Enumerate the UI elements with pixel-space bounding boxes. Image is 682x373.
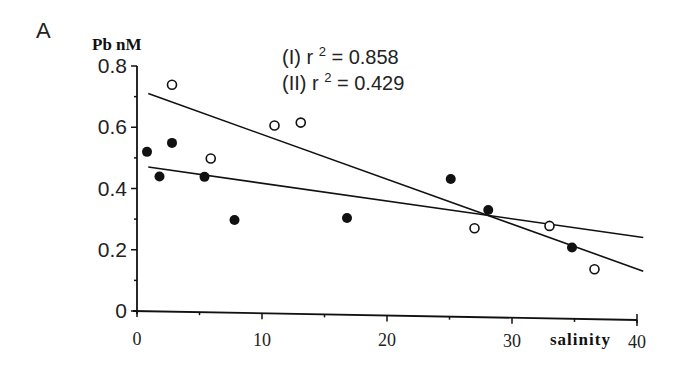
open-circle-point	[206, 154, 215, 163]
x-axis-line	[133, 311, 637, 320]
x-axis-label: salinity	[550, 330, 611, 349]
open-circle-point	[270, 121, 279, 130]
y-axis-label: Pb nM	[92, 35, 142, 54]
y-tick-label: 0.2	[98, 238, 127, 261]
filled-circle-point	[200, 172, 210, 182]
filled-circle-point	[342, 213, 352, 223]
filled-circle-point	[483, 205, 493, 215]
open-circle-point	[168, 80, 177, 89]
scatter-chart: A Pb nM (I) r 2 = 0.858(II) r 2 = 0.429 …	[0, 0, 682, 373]
open-circle-point	[470, 224, 479, 233]
data-points	[142, 80, 599, 273]
y-tick-label: 0.8	[98, 54, 127, 77]
y-tick-label: 0.4	[98, 177, 128, 200]
x-tick-label: 30	[503, 331, 521, 351]
open-circle-point	[296, 118, 305, 127]
open-circle-point	[590, 265, 599, 274]
filled-circle-point	[567, 243, 577, 253]
x-tick-label: 0	[133, 329, 142, 349]
panel-label: A	[36, 18, 51, 43]
filled-circle-point	[230, 215, 240, 225]
r-squared-label: (I) r 2 = 0.858	[282, 44, 399, 68]
filled-circle-point	[155, 171, 165, 181]
y-tick-label: 0.6	[98, 115, 127, 138]
r-squared-label: (II) r 2 = 0.429	[282, 70, 404, 94]
regression-line-II	[148, 167, 643, 237]
x-tick-label: 40	[628, 332, 646, 352]
filled-circle-point	[446, 174, 456, 184]
filled-circle-point	[167, 138, 177, 148]
x-tick-label: 10	[253, 330, 271, 350]
r-squared-annotations: (I) r 2 = 0.858(II) r 2 = 0.429	[282, 44, 404, 94]
x-tick-label: 20	[378, 330, 396, 350]
y-tick-label: 0	[115, 299, 127, 322]
open-circle-point	[545, 221, 554, 230]
filled-circle-point	[142, 147, 152, 157]
axes: 00.20.40.60.8010203040	[98, 54, 646, 352]
